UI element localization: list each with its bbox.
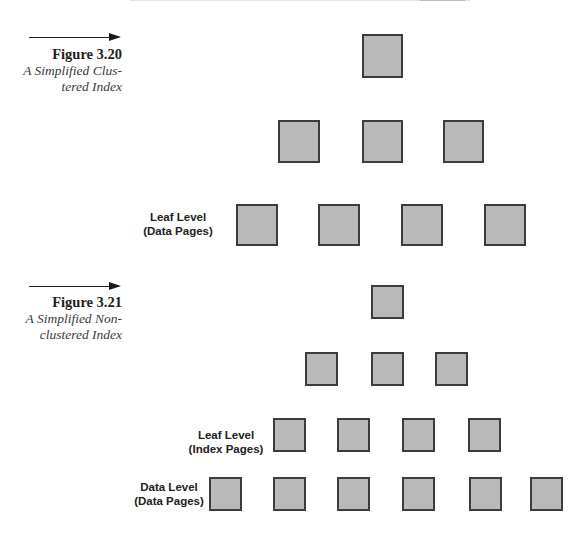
data-page — [337, 477, 370, 511]
leaf-index-page — [337, 418, 370, 452]
figure-number: Figure 3.20 — [0, 45, 122, 63]
label-line2: (Data Pages) — [130, 494, 208, 508]
arrow-icon — [29, 286, 119, 287]
data-page — [209, 477, 242, 511]
figure-title-line2: clustered Index — [0, 327, 122, 343]
figure-number: Figure 3.21 — [0, 293, 122, 311]
label-line1: Data Level — [130, 480, 208, 494]
label-line2: (Index Pages) — [185, 442, 267, 456]
intermediate-page — [435, 352, 468, 386]
arrow-icon — [29, 37, 119, 38]
figure-caption: Figure 3.21 A Simplified Non- clustered … — [0, 293, 122, 343]
figure-caption: Figure 3.20 A Simplified Clus- tered Ind… — [0, 45, 122, 95]
leaf-data-page — [484, 204, 526, 246]
data-page — [469, 477, 502, 511]
figure-title-line1: A Simplified Non- — [0, 311, 122, 327]
intermediate-page — [371, 352, 404, 386]
root-page — [371, 285, 404, 319]
leaf-index-page — [273, 418, 306, 452]
data-page — [402, 477, 435, 511]
intermediate-page — [278, 120, 320, 163]
leaf-index-page — [402, 418, 435, 452]
leaf-data-page — [318, 204, 360, 246]
figure-title-line1: A Simplified Clus- — [0, 63, 122, 79]
root-page — [362, 34, 403, 78]
label-line2: (Data Pages) — [138, 224, 218, 238]
leaf-data-page — [236, 204, 278, 246]
label-line1: Leaf Level — [185, 428, 267, 442]
level-label-leaf: Leaf Level (Data Pages) — [138, 210, 218, 238]
intermediate-page — [443, 120, 484, 163]
data-page — [530, 477, 563, 511]
page-top-rule-dark — [420, 0, 465, 1]
intermediate-page — [305, 352, 338, 386]
intermediate-page — [362, 120, 403, 163]
label-line1: Leaf Level — [138, 210, 218, 224]
leaf-data-page — [401, 204, 443, 246]
level-label-leaf: Leaf Level (Index Pages) — [185, 428, 267, 456]
data-page — [273, 477, 306, 511]
level-label-data: Data Level (Data Pages) — [130, 480, 208, 508]
leaf-index-page — [468, 418, 501, 452]
figure-title-line2: tered Index — [0, 79, 122, 95]
page-top-rule — [130, 0, 470, 1]
